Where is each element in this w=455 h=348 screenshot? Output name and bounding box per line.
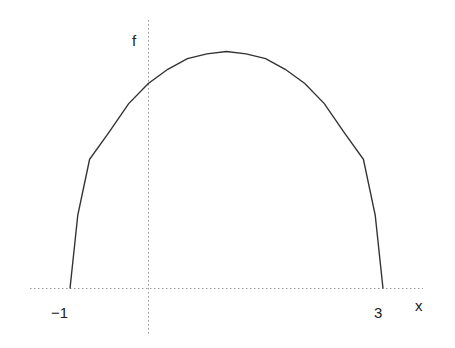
- function-plot: [0, 0, 455, 348]
- tick-label-neg1: −1: [51, 305, 68, 320]
- x-axis-label: x: [415, 298, 423, 313]
- tick-label-3: 3: [374, 305, 382, 320]
- y-axis-label: f: [132, 33, 136, 48]
- function-curve: [70, 52, 383, 289]
